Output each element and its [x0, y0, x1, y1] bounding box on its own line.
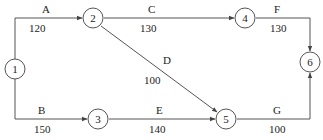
edge-a: A 120: [15, 3, 82, 59]
edge-e-value: 140: [149, 123, 166, 135]
edge-b-value: 150: [34, 123, 51, 135]
edge-c-name: C: [148, 3, 155, 15]
node-5: 5: [216, 109, 236, 129]
node-2-label: 2: [90, 12, 96, 24]
node-4-label: 4: [242, 12, 248, 24]
node-6-label: 6: [307, 56, 313, 68]
edge-a-value: 120: [29, 22, 46, 34]
edge-f-name: F: [274, 3, 280, 15]
edge-b: B 150: [15, 79, 87, 135]
node-6: 6: [300, 52, 320, 72]
edge-b-name: B: [38, 104, 45, 116]
edge-d-value: 100: [144, 74, 161, 86]
edge-d-name: D: [163, 54, 171, 66]
node-5-label: 5: [223, 113, 229, 125]
network-diagram: A 120 B 150 C 130 D 100 E 140 F 130 G 10…: [0, 0, 323, 140]
edge-g-name: G: [273, 104, 281, 116]
edge-a-name: A: [42, 3, 50, 15]
edge-e: E 140: [109, 104, 215, 135]
node-1-label: 1: [12, 63, 18, 75]
edge-d: D 100: [101, 26, 217, 112]
edge-g: G 100: [237, 73, 310, 135]
edge-c-value: 130: [140, 22, 157, 34]
node-4: 4: [235, 8, 255, 28]
edge-f-value: 130: [270, 22, 287, 34]
diagram-svg: A 120 B 150 C 130 D 100 E 140 F 130 G 10…: [0, 0, 323, 140]
node-3: 3: [88, 109, 108, 129]
node-2: 2: [83, 8, 103, 28]
edge-f: F 130: [256, 3, 310, 51]
node-1: 1: [5, 59, 25, 79]
node-3-label: 3: [95, 113, 101, 125]
edge-c: C 130: [104, 3, 234, 34]
edge-g-value: 100: [269, 123, 286, 135]
edge-e-name: E: [156, 104, 163, 116]
